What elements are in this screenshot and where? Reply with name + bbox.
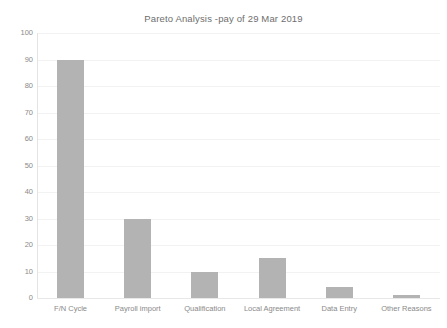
x-axis-category-label: F/N Cycle [37, 305, 104, 313]
x-axis-category-label: Other Reasons [373, 305, 440, 313]
x-axis-category-label: Qualification [171, 305, 238, 313]
y-axis-tick-label: 10 [3, 268, 33, 276]
y-axis-tick-label: 100 [3, 29, 33, 37]
y-axis-tick-label: 50 [3, 162, 33, 170]
y-axis-tick-label: 30 [3, 215, 33, 223]
y-axis-tick-label: 80 [3, 82, 33, 90]
x-axis-line [37, 298, 440, 299]
bar[interactable] [326, 287, 353, 298]
y-axis-tick-label: 70 [3, 109, 33, 117]
y-axis-tick-labels: 1009080706050403020100 [0, 33, 33, 298]
y-axis-tick-label: 60 [3, 135, 33, 143]
bar[interactable] [124, 219, 151, 299]
y-axis-tick-label: 20 [3, 241, 33, 249]
x-axis-category-label: Payroll import [104, 305, 171, 313]
bar[interactable] [57, 60, 84, 299]
bar[interactable] [259, 258, 286, 298]
x-axis-category-labels: F/N CyclePayroll importQualificationLoca… [37, 301, 440, 321]
x-axis-category-label: Data Entry [306, 305, 373, 313]
chart-title: Pareto Analysis -pay of 29 Mar 2019 [0, 13, 447, 24]
y-axis-tick-label: 40 [3, 188, 33, 196]
pareto-chart: Pareto Analysis -pay of 29 Mar 2019 1009… [0, 0, 447, 328]
y-axis-tick-label: 90 [3, 56, 33, 64]
y-axis-tick-label: 0 [3, 294, 33, 302]
bar[interactable] [191, 272, 218, 299]
bar-series [37, 33, 440, 298]
bar[interactable] [393, 295, 420, 298]
x-axis-category-label: Local Agreement [239, 305, 306, 313]
